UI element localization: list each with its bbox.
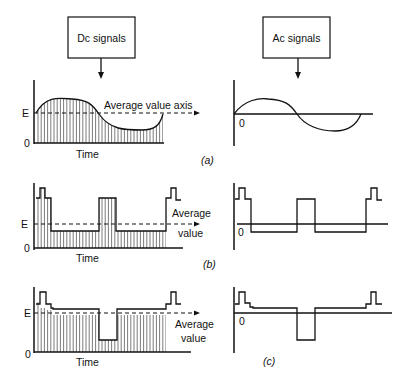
arrow-down-icon [98,72,104,79]
time-label: Time [76,252,99,264]
area-hatching [38,180,166,248]
panel-b-ac: 0 [234,183,388,250]
value-label: value [178,227,203,239]
panel-a-caption: (a) [201,154,214,166]
dc-signals-label: Dc signals [77,32,125,44]
ac-pulse-waveform [235,188,382,232]
zero-label: 0 [24,242,30,254]
zero-label: 0 [239,117,245,129]
panel-a-dc: E 0 Time Average value axis [22,80,200,160]
panel-b-dc: E 0 Time Average value [21,180,211,264]
panel-c-dc: E 0 Time Average value [24,287,214,368]
panel-c-caption: (c) [263,355,275,367]
dc-pulse-notch-waveform [36,292,181,340]
ac-sine-waveform [234,99,361,131]
dc-signals-box: Dc signals [68,17,135,79]
panel-b-caption: (b) [203,258,216,270]
arrow-right-icon [194,222,200,227]
ac-signals-label: Ac signals [273,32,321,44]
e-label: E [21,218,28,230]
e-label: E [24,307,31,319]
area-hatching [38,290,166,352]
arrow-right-icon [194,311,200,316]
panel-c-ac: 0 [234,287,392,353]
panel-a-ac: 0 [234,80,373,146]
zero-label: 0 [25,348,31,360]
zero-label: 0 [239,315,245,327]
time-label: Time [76,148,99,160]
zero-label: 0 [238,226,244,238]
average-value-axis-label: Average value axis [104,99,193,111]
average-label: Average [172,207,211,219]
value-label: value [181,332,206,344]
dc-ac-signals-diagram: Dc signals Ac signals E 0 [0,0,405,387]
arrow-right-icon [194,111,200,116]
ac-pulse-notch-waveform [235,292,382,340]
zero-label: 0 [24,137,30,149]
ac-signals-box: Ac signals [263,17,330,79]
average-label: Average [175,318,214,330]
e-label: E [22,107,29,119]
arrow-down-icon [295,72,301,79]
time-label: Time [76,356,99,368]
